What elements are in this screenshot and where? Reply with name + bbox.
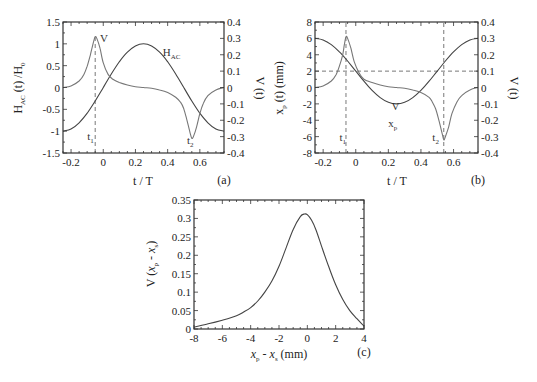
y-tick-label: 1 <box>55 38 61 50</box>
x-tick-label: -0.2 <box>314 156 331 168</box>
y-right-tick-label: -0.3 <box>227 131 245 143</box>
x-tick-label: 0.4 <box>161 156 175 168</box>
y-tick-label: 8 <box>307 16 313 28</box>
y-tick-label: 6 <box>307 32 313 44</box>
y-right-tick-label: 0.4 <box>227 16 241 28</box>
x-axis-label-c: xp - xs (mm) <box>250 347 308 363</box>
x-tick-label: -0.2 <box>62 156 79 168</box>
y-tick-label: -1 <box>51 125 60 137</box>
x-tick-label: 0 <box>305 332 311 344</box>
y-right-tick-label: 0 <box>481 82 487 94</box>
y-right-tick-label: -0.1 <box>481 98 498 110</box>
panel-label-b: (b) <box>471 173 485 187</box>
svg-text:V (t): V (t) <box>253 77 267 100</box>
x-tick-label: 0.2 <box>129 156 143 168</box>
y-tick-label: -2 <box>303 98 312 110</box>
chart-panel-a: VHACt1t2 -0.200.20.40.6-1.5-1-0.500.511.… <box>11 16 267 188</box>
svg-text:xp - xs (mm): xp - xs (mm) <box>250 347 308 363</box>
y-tick-label: 0.35 <box>172 194 192 206</box>
x-tick-label: -6 <box>218 332 228 344</box>
svg-text:V (t): V (t) <box>507 77 521 100</box>
panel-label-c: (c) <box>357 345 370 359</box>
plot-curves-b: Vxpt1t2 <box>315 22 478 153</box>
x-tick-label: -2 <box>274 332 283 344</box>
y-right-tick-label: 0.2 <box>227 49 241 61</box>
y-tick-label: 0.1 <box>177 286 191 298</box>
y-tick-label: 1.5 <box>46 16 60 28</box>
plot-curves-c <box>194 214 364 327</box>
y-tick-label: 0.5 <box>46 60 60 72</box>
x-axis-label-a: t / T <box>133 174 153 188</box>
figure: VHACt1t2 -0.200.20.40.6-1.5-1-0.500.511.… <box>0 0 537 382</box>
y-right-tick-label: -0.3 <box>481 131 499 143</box>
y-right-tick-label: -0.4 <box>227 147 245 159</box>
y-tick-label: -6 <box>303 131 313 143</box>
panel-label-a: (a) <box>217 173 230 187</box>
y-tick-label: 0.25 <box>172 231 192 243</box>
y-tick-label: 0 <box>186 323 192 335</box>
chart-panel-b: Vxpt1t2 -0.200.20.40.6-8-6-4-202468-0.4-… <box>272 16 521 188</box>
annotation: t1 <box>87 130 94 145</box>
y-tick-label: 2 <box>307 65 313 77</box>
y-right-tick-label: -0.2 <box>481 114 498 126</box>
x-tick-label: 0 <box>353 156 359 168</box>
y-axis-label-left-a: HAC (t) /H0 <box>11 62 27 114</box>
y-tick-label: 4 <box>307 49 313 61</box>
series-v <box>194 214 364 327</box>
y-tick-label: -1.5 <box>43 147 61 159</box>
y-right-tick-label: 0.3 <box>227 32 241 44</box>
y-tick-label: 0.2 <box>177 249 191 261</box>
x-tick-label: 4 <box>361 332 367 344</box>
ticks-a: -0.200.20.40.6-1.5-1-0.500.511.5-0.4-0.3… <box>43 16 245 168</box>
y-tick-label: 0.15 <box>172 268 192 280</box>
y-right-tick-label: 0 <box>227 82 233 94</box>
x-tick-label: -4 <box>246 332 256 344</box>
y-tick-label: -4 <box>303 114 313 126</box>
y-tick-label: 0 <box>55 82 61 94</box>
annotation: V <box>392 100 400 112</box>
chart-panel-c: -8-6-4-202400.050.10.150.20.250.30.35 xp… <box>144 194 371 363</box>
y-right-tick-label: -0.1 <box>227 98 244 110</box>
y-right-tick-label: 0.2 <box>481 49 495 61</box>
y-right-tick-label: 0.3 <box>481 32 495 44</box>
x-axis-label-b: t / T <box>387 174 407 188</box>
y-right-tick-label: 0.1 <box>481 65 495 77</box>
y-tick-label: 0 <box>307 82 313 94</box>
svg-text:V (xp - xs): V (xp - xs) <box>144 241 160 287</box>
y-axis-label-left-b: xp (t) (mm) <box>272 61 288 115</box>
svg-text:xp (t) (mm): xp (t) (mm) <box>272 61 288 115</box>
y-axis-label-c: V (xp - xs) <box>144 241 160 287</box>
x-tick-label: 0 <box>101 156 107 168</box>
series-v <box>63 36 224 138</box>
x-tick-label: 2 <box>333 332 339 344</box>
x-tick-label: 0.6 <box>447 156 461 168</box>
ticks-b: -0.200.20.40.6-8-6-4-202468-0.4-0.3-0.2-… <box>303 16 499 168</box>
x-tick-label: 0.6 <box>193 156 207 168</box>
y-axis-label-right-b: V (t) <box>507 77 521 100</box>
annotation: V <box>100 32 108 44</box>
annotation: t1 <box>339 131 346 146</box>
plot-curves-a: VHACt1t2 <box>63 32 224 153</box>
x-tick-label: 0.4 <box>414 156 428 168</box>
y-right-tick-label: 0.4 <box>481 16 495 28</box>
x-tick-label: 0.2 <box>381 156 395 168</box>
y-tick-label: 0.05 <box>172 305 192 317</box>
y-right-tick-label: -0.2 <box>227 114 244 126</box>
y-tick-label: -8 <box>303 147 313 159</box>
annotation: t2 <box>432 131 439 146</box>
y-right-tick-label: -0.4 <box>481 147 499 159</box>
y-right-tick-label: 0.1 <box>227 65 241 77</box>
svg-text:HAC (t) /H0: HAC (t) /H0 <box>11 62 27 114</box>
plot-frame-c <box>194 200 364 329</box>
y-tick-label: -0.5 <box>43 103 61 115</box>
y-tick-label: 0.3 <box>177 212 191 224</box>
y-axis-label-right-a: V (t) <box>253 77 267 100</box>
annotation: xp <box>388 117 398 132</box>
ticks-c: -8-6-4-202400.050.10.150.20.250.30.35 <box>172 194 368 344</box>
